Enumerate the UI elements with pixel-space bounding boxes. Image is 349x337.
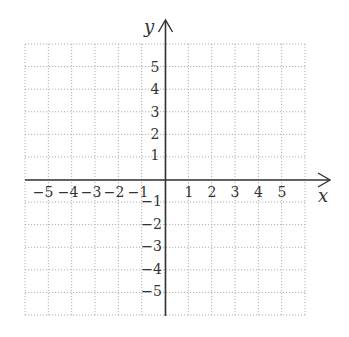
x-tick-neg3: −3 [81, 184, 102, 200]
y-tick-2: 2 [151, 126, 160, 142]
x-tick-3: 3 [231, 184, 240, 200]
y-tick-5: 5 [151, 59, 160, 75]
coordinate-plane: x y 1 2 3 4 5 −5 −4 −3 −2 −1 5 4 3 2 1 −… [0, 0, 349, 337]
y-tick-neg3: −3 [141, 238, 162, 254]
y-axis-label: y [143, 16, 155, 37]
y-tick-1: 1 [151, 147, 160, 163]
y-tick-4: 4 [151, 81, 160, 97]
x-tick-neg5: −5 [33, 184, 54, 200]
x-tick-4: 4 [254, 184, 263, 200]
x-tick-neg2: −2 [104, 184, 125, 200]
x-tick-5: 5 [278, 184, 287, 200]
y-tick-neg5: −5 [141, 283, 162, 299]
x-tick-2: 2 [208, 184, 217, 200]
x-tick-1: 1 [185, 184, 194, 200]
y-tick-neg2: −2 [141, 216, 162, 232]
y-tick-neg1: −1 [141, 193, 162, 209]
x-tick-neg4: −4 [58, 184, 79, 200]
y-tick-neg4: −4 [141, 261, 162, 277]
x-axis-label: x [318, 185, 328, 206]
y-tick-3: 3 [151, 104, 160, 120]
